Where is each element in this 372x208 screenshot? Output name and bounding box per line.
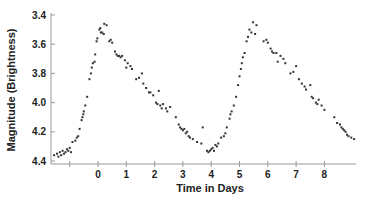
x-tick-label: 6 xyxy=(265,169,271,180)
y-tick-label: 4.0 xyxy=(32,97,46,108)
data-point xyxy=(81,119,83,121)
x-tick-label: 0 xyxy=(95,169,101,180)
data-point xyxy=(350,137,352,139)
data-point xyxy=(106,24,108,26)
data-point xyxy=(289,72,291,74)
data-point xyxy=(99,27,101,29)
data-point xyxy=(77,135,79,137)
data-point xyxy=(353,138,355,140)
data-point xyxy=(265,39,267,41)
data-point xyxy=(114,51,116,53)
data-point xyxy=(316,103,318,105)
data-points xyxy=(53,21,355,157)
data-point xyxy=(254,33,256,35)
data-point xyxy=(60,154,62,156)
y-tick-label: 3.4 xyxy=(32,10,46,21)
data-point xyxy=(277,61,279,63)
data-point xyxy=(246,40,248,42)
data-point xyxy=(275,52,277,54)
data-point xyxy=(242,56,244,58)
data-point xyxy=(53,154,55,156)
data-point xyxy=(145,87,147,89)
data-point xyxy=(165,107,167,109)
data-point xyxy=(175,116,177,118)
data-point xyxy=(237,84,239,86)
data-point xyxy=(217,143,219,145)
data-point xyxy=(121,55,123,57)
data-point xyxy=(309,84,311,86)
data-point xyxy=(186,131,188,133)
data-point xyxy=(282,58,284,60)
data-point xyxy=(223,135,225,137)
data-point xyxy=(84,105,86,107)
data-point xyxy=(345,131,347,133)
data-point xyxy=(189,137,191,139)
data-point xyxy=(86,96,88,98)
data-point xyxy=(183,128,185,130)
data-point xyxy=(169,106,171,108)
data-point xyxy=(142,83,144,85)
data-point xyxy=(135,78,137,80)
data-point xyxy=(96,40,98,42)
data-point xyxy=(200,143,202,145)
data-point xyxy=(62,150,64,152)
data-point xyxy=(152,94,154,96)
x-axis-title: Time in Days xyxy=(176,182,244,194)
data-point xyxy=(233,105,235,107)
scatter-plot: 3.43.63.84.04.24.4 012345678 Time in Day… xyxy=(0,0,372,208)
data-point xyxy=(250,32,252,34)
data-point xyxy=(252,21,254,23)
data-point xyxy=(138,77,140,79)
data-point xyxy=(56,153,58,155)
data-point xyxy=(241,62,243,64)
data-point xyxy=(178,124,180,126)
data-point xyxy=(295,65,297,67)
x-tick-label: 5 xyxy=(237,169,243,180)
data-point xyxy=(224,132,226,134)
data-point xyxy=(273,52,275,54)
data-point xyxy=(267,42,269,44)
data-point xyxy=(89,78,91,80)
data-point xyxy=(59,151,61,153)
data-point xyxy=(323,109,325,111)
y-ticks: 3.43.63.84.04.24.4 xyxy=(32,10,55,167)
data-point xyxy=(298,78,300,80)
data-point xyxy=(301,83,303,85)
data-point xyxy=(256,24,258,26)
data-point xyxy=(270,48,272,50)
data-point xyxy=(149,91,151,93)
x-tick-label: 4 xyxy=(208,169,214,180)
data-point xyxy=(229,118,231,120)
data-point xyxy=(69,147,71,149)
data-point xyxy=(339,124,341,126)
light-curve-chart: 3.43.63.84.04.24.4 012345678 Time in Day… xyxy=(0,0,372,208)
data-point xyxy=(305,89,307,91)
data-point xyxy=(247,36,249,38)
data-point xyxy=(79,128,81,130)
data-point xyxy=(226,126,228,128)
x-tick-label: 7 xyxy=(293,169,299,180)
y-tick-label: 3.6 xyxy=(32,39,46,50)
data-point xyxy=(348,135,350,137)
data-point xyxy=(312,97,314,99)
x-tick-label: 1 xyxy=(124,169,130,180)
data-point xyxy=(192,138,194,140)
data-point xyxy=(284,62,286,64)
data-point xyxy=(318,99,320,101)
data-point xyxy=(244,52,246,54)
x-tick-label: 8 xyxy=(322,169,328,180)
data-point xyxy=(127,62,129,64)
data-point xyxy=(158,90,160,92)
data-point xyxy=(196,141,198,143)
data-point xyxy=(292,71,294,73)
data-point xyxy=(91,67,93,69)
data-point xyxy=(74,140,76,142)
data-point xyxy=(213,150,215,152)
data-point xyxy=(161,107,163,109)
data-point xyxy=(220,137,222,139)
data-point xyxy=(103,33,105,35)
data-point xyxy=(304,86,306,88)
data-point xyxy=(83,110,85,112)
data-point xyxy=(216,145,218,147)
y-tick-label: 3.8 xyxy=(32,68,46,79)
